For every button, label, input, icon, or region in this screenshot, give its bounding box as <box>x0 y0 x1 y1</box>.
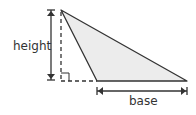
base-label: base <box>129 94 158 108</box>
triangle-diagram: height base <box>0 0 196 115</box>
triangle <box>61 10 187 81</box>
height-label: height <box>13 39 52 53</box>
right-angle-marker <box>61 73 69 81</box>
